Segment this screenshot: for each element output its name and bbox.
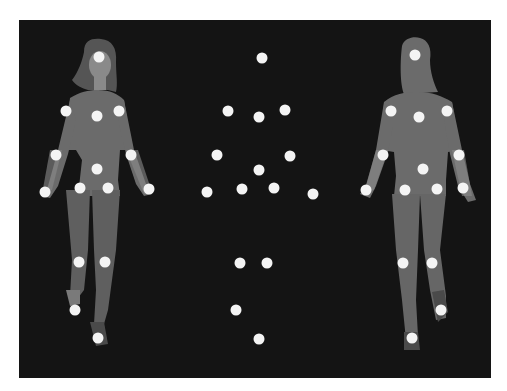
marker-dot [94, 52, 105, 63]
marker-dot [378, 150, 389, 161]
marker-dot [308, 189, 319, 200]
marker-dot [100, 257, 111, 268]
marker-dot [386, 106, 397, 117]
marker-dot [254, 165, 265, 176]
marker-dot [285, 151, 296, 162]
marker-dot [223, 106, 234, 117]
marker-dot [61, 106, 72, 117]
marker-dot [144, 184, 155, 195]
front-woman-silhouette [42, 39, 152, 346]
marker-dot [361, 185, 372, 196]
marker-dot [92, 164, 103, 175]
marker-dot [418, 164, 429, 175]
point-light-figure-markers [202, 53, 319, 345]
marker-dot [70, 305, 81, 316]
marker-dot [427, 258, 438, 269]
marker-dot [231, 305, 242, 316]
marker-dot [407, 333, 418, 344]
marker-dot [436, 305, 447, 316]
marker-dot [262, 258, 273, 269]
marker-dot [414, 112, 425, 123]
marker-dot [75, 183, 86, 194]
marker-dot [454, 150, 465, 161]
marker-dot [400, 185, 411, 196]
marker-dot [202, 187, 213, 198]
marker-dot [92, 111, 103, 122]
marker-dot [432, 184, 443, 195]
marker-dot [40, 187, 51, 198]
marker-dot [237, 184, 248, 195]
marker-dot [257, 53, 268, 64]
marker-dot [254, 112, 265, 123]
marker-dot [398, 258, 409, 269]
marker-dot [103, 183, 114, 194]
marker-dot [458, 183, 469, 194]
marker-dot [269, 183, 280, 194]
marker-dot [51, 150, 62, 161]
marker-dot [114, 106, 125, 117]
marker-dot [280, 105, 291, 116]
marker-dot [74, 257, 85, 268]
back-woman-silhouette [360, 37, 476, 350]
figures-layer [0, 0, 507, 391]
marker-dot [235, 258, 246, 269]
marker-dot [93, 333, 104, 344]
marker-dot [126, 150, 137, 161]
marker-dot [442, 106, 453, 117]
marker-dot [212, 150, 223, 161]
marker-dot [254, 334, 265, 345]
marker-dot [410, 50, 421, 61]
